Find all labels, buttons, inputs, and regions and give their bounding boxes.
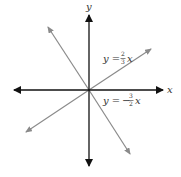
y-axis-label: y xyxy=(85,1,92,12)
equation-variable: x xyxy=(135,95,141,106)
coordinate-diagram: y x y = 2 3 x y = − 3 2 x xyxy=(0,0,181,177)
fraction-denominator: 2 xyxy=(129,100,133,107)
diagram-canvas: y x y = 2 3 x y = − 3 2 x xyxy=(0,0,181,177)
equation-label-positive: y = 2 3 x xyxy=(102,50,133,65)
x-axis-label: x xyxy=(167,84,173,95)
equation-label-negative: y = − 3 2 x xyxy=(102,92,141,107)
equation-prefix: y = xyxy=(102,95,120,106)
fraction-denominator: 3 xyxy=(121,58,125,65)
equation-variable: x xyxy=(127,53,133,64)
fraction-numerator: 3 xyxy=(129,92,133,99)
equation-prefix: y = xyxy=(102,53,120,64)
fraction-numerator: 2 xyxy=(121,50,125,57)
